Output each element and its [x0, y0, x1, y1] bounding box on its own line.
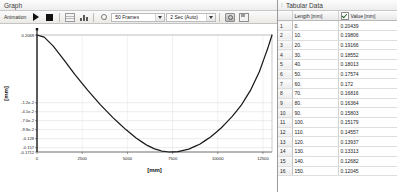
row-index[interactable]: 16: [278, 166, 292, 176]
row-value[interactable]: 0.172: [338, 79, 397, 89]
row-value[interactable]: 0.19806: [338, 30, 397, 40]
row-index[interactable]: 10: [278, 108, 292, 118]
tabular-data-grid[interactable]: Length [mm] Value [mm] 10.0.20439210.0.1…: [278, 11, 397, 176]
frames-dropdown[interactable]: 50 Frames: [111, 13, 165, 22]
row-length[interactable]: 150.: [292, 166, 338, 176]
row-index[interactable]: 14: [278, 147, 292, 157]
stop-button[interactable]: [43, 11, 56, 24]
chevron-down-icon: [209, 16, 213, 19]
y-tick-label: 0.2069: [21, 33, 34, 38]
grid-body: 10.0.20439210.0.19806320.0.19166430.0.18…: [278, 21, 397, 176]
row-value[interactable]: 0.19166: [338, 40, 397, 50]
row-index[interactable]: 9: [278, 98, 292, 108]
table-row[interactable]: 11100.0.15179: [278, 118, 397, 128]
graph-panel-title: Graph: [0, 0, 277, 11]
grid-header-row: Length [mm] Value [mm]: [278, 11, 397, 21]
row-index[interactable]: 7: [278, 79, 292, 89]
row-value[interactable]: 0.17574: [338, 69, 397, 79]
tabular-data-panel: ⁞ Tabular Data Length [mm] Value [mm] 10…: [278, 0, 397, 192]
row-length[interactable]: 20.: [292, 40, 338, 50]
row-index[interactable]: 15: [278, 156, 292, 166]
row-value[interactable]: 0.15803: [338, 108, 397, 118]
light-bulb-icon: [101, 14, 106, 20]
y-tick-label: -9.9e-2: [21, 127, 35, 132]
row-length[interactable]: 140.: [292, 156, 338, 166]
table-row[interactable]: 320.0.19166: [278, 40, 397, 50]
row-index[interactable]: 3: [278, 40, 292, 50]
row-value[interactable]: 0.18552: [338, 50, 397, 60]
row-length[interactable]: 100.: [292, 118, 338, 128]
row-index[interactable]: 8: [278, 89, 292, 99]
row-index[interactable]: 11: [278, 118, 292, 128]
table-row[interactable]: 15140.0.12682: [278, 156, 397, 166]
plot-area[interactable]: 0.2069-1.2e-2-4.1e-2-7.0e-2-9.9e-2-0.128…: [0, 24, 278, 192]
table-row[interactable]: 1090.0.15803: [278, 108, 397, 118]
row-value[interactable]: 0.16816: [338, 89, 397, 99]
row-length[interactable]: 10.: [292, 30, 338, 40]
table-row[interactable]: 12110.0.14557: [278, 127, 397, 137]
row-value[interactable]: 0.12682: [338, 156, 397, 166]
play-button[interactable]: [29, 11, 42, 24]
table-row[interactable]: 760.0.172: [278, 79, 397, 89]
x-tick-label: 5000: [123, 156, 133, 161]
row-length[interactable]: 30.: [292, 50, 338, 60]
y-tick-label: -4.1e-2: [21, 109, 35, 114]
toolbar-separator-1: [59, 13, 60, 22]
animation-toolbar: Animation 50 Frames: [0, 11, 277, 24]
row-length[interactable]: 120.: [292, 137, 338, 147]
row-index[interactable]: 13: [278, 137, 292, 147]
play-icon: [33, 13, 39, 21]
row-value[interactable]: 0.15179: [338, 118, 397, 128]
table-row[interactable]: 10.0.20439: [278, 21, 397, 31]
row-index[interactable]: 2: [278, 30, 292, 40]
value-column-checkbox[interactable]: [341, 12, 349, 20]
row-value[interactable]: 0.13937: [338, 137, 397, 147]
table-row[interactable]: 650.0.17574: [278, 69, 397, 79]
grid-header: Length [mm] Value [mm]: [278, 11, 397, 21]
table-row[interactable]: 540.0.18013: [278, 59, 397, 69]
y-axis-label: [mm]: [3, 86, 9, 101]
row-index[interactable]: 4: [278, 50, 292, 60]
chevron-down-icon: [158, 16, 162, 19]
row-length[interactable]: 40.: [292, 59, 338, 69]
column-header-index[interactable]: [278, 11, 292, 21]
row-length[interactable]: 90.: [292, 108, 338, 118]
light-bulb-button[interactable]: [97, 11, 110, 24]
export-button[interactable]: [237, 11, 250, 24]
row-length[interactable]: 60.: [292, 79, 338, 89]
distribution-button[interactable]: [63, 11, 76, 24]
table-row[interactable]: 14130.0.13313: [278, 147, 397, 157]
duration-dropdown-arrow[interactable]: [206, 14, 215, 21]
row-length[interactable]: 130.: [292, 147, 338, 157]
row-length[interactable]: 80.: [292, 98, 338, 108]
column-header-length[interactable]: Length [mm]: [292, 11, 338, 21]
row-value[interactable]: 0.13313: [338, 147, 397, 157]
stop-icon: [46, 14, 53, 21]
row-index[interactable]: 5: [278, 59, 292, 69]
duration-dropdown[interactable]: 2 Sec (Auto): [166, 13, 216, 22]
row-value[interactable]: 0.14557: [338, 127, 397, 137]
row-index[interactable]: 1: [278, 21, 292, 31]
table-row[interactable]: 870.0.16816: [278, 89, 397, 99]
row-length[interactable]: 50.: [292, 69, 338, 79]
column-header-value[interactable]: Value [mm]: [338, 11, 397, 21]
row-value[interactable]: 0.12045: [338, 166, 397, 176]
row-value[interactable]: 0.18013: [338, 59, 397, 69]
capture-image-button[interactable]: [223, 11, 236, 24]
row-length[interactable]: 70.: [292, 89, 338, 99]
row-index[interactable]: 12: [278, 127, 292, 137]
table-row[interactable]: 430.0.18552: [278, 50, 397, 60]
row-index[interactable]: 6: [278, 69, 292, 79]
row-length[interactable]: 0.: [292, 21, 338, 31]
row-value[interactable]: 0.20439: [338, 21, 397, 31]
row-length[interactable]: 110.: [292, 127, 338, 137]
animation-cursor-handle[interactable]: [36, 28, 38, 30]
frames-dropdown-arrow[interactable]: [155, 14, 164, 21]
table-row[interactable]: 980.0.16364: [278, 98, 397, 108]
row-value[interactable]: 0.16364: [338, 98, 397, 108]
bar-chart-button[interactable]: [77, 11, 90, 24]
table-row[interactable]: 210.0.19806: [278, 30, 397, 40]
table-row[interactable]: 13120.0.13937: [278, 137, 397, 147]
table-row[interactable]: 16150.0.12045: [278, 166, 397, 176]
x-tick-label: 0: [36, 156, 39, 161]
